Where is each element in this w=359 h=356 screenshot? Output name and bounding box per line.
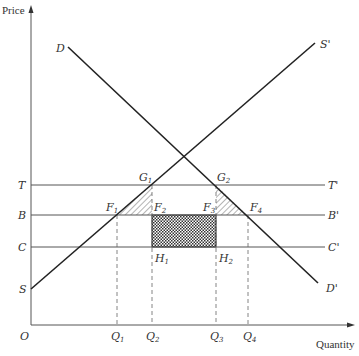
supply-end-label: S' xyxy=(320,38,331,51)
point-F1: F1 xyxy=(105,201,118,215)
quantity-Q3: Q3 xyxy=(210,330,224,344)
price-C-left: C xyxy=(18,241,27,254)
demand-curve xyxy=(68,47,318,283)
point-F4: F4 xyxy=(249,201,262,215)
price-T-right: T' xyxy=(328,179,338,192)
x-axis-arrow xyxy=(347,323,355,328)
price-C-right: C' xyxy=(328,241,339,254)
price-T-left: T xyxy=(18,179,27,192)
y-axis-arrow xyxy=(29,5,34,13)
point-G1: G1 xyxy=(139,171,152,185)
x-axis-label: Quantity xyxy=(316,338,355,350)
origin-label: O xyxy=(20,330,29,343)
supply-demand-diagram: Price Quantity O D D' S S' T T' B B' C C… xyxy=(0,0,359,356)
supply-start-label: S xyxy=(19,283,27,296)
point-F2: F2 xyxy=(153,201,167,215)
point-H1: H1 xyxy=(154,252,169,266)
point-H2: H2 xyxy=(218,252,234,266)
quantity-Q4: Q4 xyxy=(243,330,257,344)
demand-end-label: D' xyxy=(325,282,338,295)
demand-start-label: D xyxy=(55,42,65,55)
price-B-right: B' xyxy=(327,209,339,222)
point-F3: F3 xyxy=(202,201,216,215)
revenue-rectangle xyxy=(152,215,216,247)
y-axis-label: Price xyxy=(2,4,25,16)
quantity-Q2: Q2 xyxy=(146,330,160,344)
point-G2: G2 xyxy=(217,171,231,185)
supply-curve xyxy=(31,43,315,289)
price-B-left: B xyxy=(17,209,26,222)
quantity-Q1: Q1 xyxy=(111,330,125,344)
